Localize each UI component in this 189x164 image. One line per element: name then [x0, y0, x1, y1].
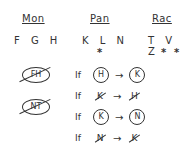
antecedent: K: [93, 109, 109, 125]
if-label: If: [75, 70, 87, 80]
antecedent-negated: N: [93, 131, 107, 145]
arrow-icon: →: [113, 91, 121, 102]
consequent-negated: H: [127, 89, 141, 103]
group-header-rac: Rac: [152, 13, 172, 24]
consequent: N: [129, 109, 145, 125]
group-header-pan: Pan: [90, 13, 110, 24]
star-z: *: [174, 47, 179, 58]
group-members-mon: F G H: [14, 35, 61, 46]
group-header-mon: Mon: [22, 13, 45, 24]
if-label: If: [75, 112, 87, 122]
consequent: K: [129, 67, 145, 83]
if-label: If: [75, 133, 87, 143]
rule-4: If N → K: [75, 130, 141, 146]
antecedent-negated: K: [93, 89, 107, 103]
rule-3: If K → N: [75, 109, 145, 125]
group-members-rac: T V Z: [148, 35, 189, 57]
rule-2: If K → H: [75, 88, 141, 104]
group-members-pan: K L N: [82, 35, 128, 46]
if-label: If: [75, 91, 87, 101]
rule-1: If H → K: [75, 67, 145, 83]
star-v: *: [161, 47, 166, 58]
antecedent: H: [93, 67, 109, 83]
arrow-icon: →: [115, 70, 123, 81]
consequent-negated: K: [127, 131, 141, 145]
arrow-icon: →: [113, 133, 121, 144]
arrow-icon: →: [115, 112, 123, 123]
star-l: *: [97, 47, 102, 58]
